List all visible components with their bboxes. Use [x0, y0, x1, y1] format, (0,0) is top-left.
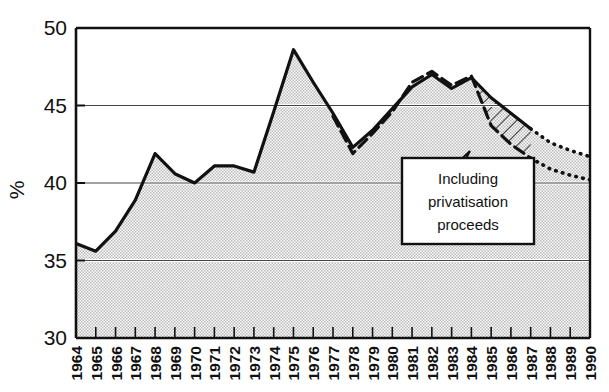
x-axis-tick-labels: 1964196519661967196819691970197119721973…: [68, 346, 599, 381]
x-tick-label: 1972: [226, 346, 243, 380]
x-tick-label: 1989: [562, 346, 579, 381]
x-tick-label: 1976: [305, 346, 322, 381]
x-tick-label: 1966: [108, 346, 125, 381]
x-tick-label: 1982: [424, 346, 441, 380]
y-axis-title: %: [5, 181, 28, 200]
x-tick-label: 1981: [404, 346, 421, 381]
y-tick-label: 50: [44, 16, 67, 39]
x-tick-label: 1980: [384, 346, 401, 380]
x-tick-label: 1974: [266, 346, 283, 381]
x-tick-label: 1988: [542, 346, 559, 381]
chart-figure: 3035404550 19641965196619671968196919701…: [0, 0, 609, 392]
x-tick-label: 1986: [503, 346, 520, 381]
x-tick-label: 1968: [147, 346, 164, 381]
x-tick-label: 1987: [523, 346, 540, 380]
callout-line-2: privatisation: [428, 193, 508, 210]
y-tick-label: 45: [44, 94, 67, 117]
x-tick-label: 1990: [582, 346, 599, 380]
x-tick-label: 1971: [206, 346, 223, 381]
x-tick-label: 1975: [285, 346, 302, 381]
y-axis-tick-labels: 3035404550: [44, 16, 67, 349]
callout-line-3: proceeds: [437, 216, 499, 233]
y-tick-label: 30: [44, 326, 67, 349]
chart-canvas: 3035404550 19641965196619671968196919701…: [0, 0, 609, 392]
x-tick-label: 1979: [365, 346, 382, 381]
x-tick-label: 1973: [246, 346, 263, 381]
x-tick-label: 1965: [88, 346, 105, 381]
y-tick-label: 40: [44, 171, 67, 194]
x-tick-label: 1978: [345, 346, 362, 381]
x-tick-label: 1969: [167, 346, 184, 381]
privatisation-callout: Including privatisation proceeds: [402, 158, 534, 244]
y-tick-label: 35: [44, 249, 67, 272]
x-tick-label: 1977: [325, 346, 342, 380]
x-tick-label: 1970: [187, 346, 204, 380]
x-tick-label: 1983: [444, 346, 461, 381]
x-tick-label: 1985: [483, 346, 500, 381]
x-tick-label: 1967: [127, 346, 144, 380]
x-tick-label: 1984: [463, 346, 480, 381]
x-tick-label: 1964: [68, 346, 85, 381]
callout-line-1: Including: [438, 170, 498, 187]
